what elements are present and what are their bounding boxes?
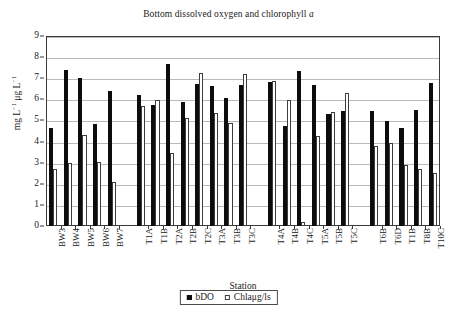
- legend-label-bdo: bDO: [195, 292, 213, 302]
- x-axis-tick-label-T2C: T2C: [203, 228, 213, 244]
- bar-Chlagls-T1B: [155, 100, 159, 226]
- chart-title: Bottom dissolved oxygen and chlorophyll …: [0, 9, 457, 19]
- y-axis-tick-label: 8: [34, 52, 39, 62]
- chart-legend: bDO Chlaμg/ls: [179, 290, 277, 305]
- bar-Chlagls-T3A: [214, 113, 218, 226]
- y-axis-tick-label: 7: [34, 73, 39, 83]
- x-axis-tick-label-T1B: T1B: [159, 228, 169, 244]
- bar-Chlagls-T6D: [389, 143, 393, 226]
- bar-Chlagls-T2B: [185, 118, 189, 226]
- y-axis-tick-label: 4: [34, 137, 39, 147]
- y-axis-tick-mark: [40, 204, 44, 205]
- x-axis-tick-label-T8B: T8B: [422, 228, 432, 244]
- bar-bDO-T4C: [297, 71, 301, 226]
- x-axis-tick-label-BW3: BW3: [57, 228, 67, 247]
- y-axis-tick-mark: [40, 120, 44, 121]
- y-axis-tick-label: 3: [34, 158, 39, 168]
- bar-Chlagls-T5C: [345, 93, 349, 226]
- x-axis-tick-label-BW4: BW4: [71, 228, 81, 247]
- x-axis-tick-label-T2A: T2A: [174, 228, 184, 245]
- bar-Chlagls-T6B: [374, 146, 378, 226]
- y-axis-tick-label: 5: [34, 116, 39, 126]
- bar-Chlagls-T8B: [418, 169, 422, 226]
- bar-Chlagls-T1A: [141, 106, 145, 226]
- x-axis-tick-label-T3B: T3B: [232, 228, 242, 244]
- open-square-icon: [225, 295, 230, 300]
- x-axis-tick-label-BW6: BW6: [101, 228, 111, 247]
- y-axis-tick-label: 0: [34, 221, 39, 231]
- y-axis-tick-label: 6: [34, 95, 39, 105]
- legend-item-chla: Chlaμg/ls: [225, 292, 271, 302]
- x-axis-tick-label-T4A: T4A: [276, 228, 286, 245]
- x-axis-tick-label-T1A: T1A: [144, 228, 154, 245]
- bar-Chlagls-BW3: [53, 169, 57, 226]
- chart-figure: Bottom dissolved oxygen and chlorophyll …: [0, 0, 457, 317]
- bar-Chlagls-T5B: [331, 112, 335, 226]
- x-axis-tick-label-BW5: BW5: [86, 228, 96, 247]
- legend-label-chla: Chlaμg/ls: [234, 292, 271, 302]
- bar-Chlagls-T3B: [228, 123, 232, 226]
- bar-Chlagls-T4A: [272, 81, 276, 226]
- x-axis-tick-label-T6B: T6B: [378, 228, 388, 244]
- bar-Chlagls-T3C: [243, 74, 247, 226]
- x-axis-tick-label-T10C: T10C: [436, 228, 446, 249]
- x-axis-tick-label-T5C: T5C: [349, 228, 359, 244]
- x-axis-tick-label-T3A: T3A: [217, 228, 227, 245]
- chart-title-italic: a: [309, 9, 314, 19]
- bar-Chlagls-BW7: [112, 182, 116, 226]
- bars-layer: [46, 36, 440, 226]
- bar-Chlagls-T2C: [199, 73, 203, 226]
- chart-title-text: Bottom dissolved oxygen and chlorophyll: [143, 9, 309, 19]
- x-axis-tick-label-BW7: BW7: [115, 228, 125, 247]
- y-axis-tick-mark: [40, 99, 44, 100]
- x-axis: BW3BW4BW5BW6BW7T1AT1BT2AT2BT2CT3AT3BT3CT…: [46, 226, 440, 282]
- x-axis-tick-label-T5B: T5B: [334, 228, 344, 244]
- bar-Chlagls-T10C: [433, 173, 437, 226]
- y-axis-tick-mark: [40, 183, 44, 184]
- x-axis-tick-label-T4B: T4B: [290, 228, 300, 244]
- y-axis-tick-mark: [40, 78, 44, 79]
- bar-Chlagls-T2A: [170, 153, 174, 226]
- x-axis-tick-label-T6D: T6D: [393, 228, 403, 245]
- y-axis-tick-label: 1: [34, 200, 39, 210]
- y-axis-tick-mark: [40, 57, 44, 58]
- bar-Chlagls-T5A: [316, 136, 320, 226]
- y-axis-tick-mark: [40, 36, 44, 37]
- x-axis-tick-label-T5A: T5A: [320, 228, 330, 245]
- y-axis-tick-mark: [40, 162, 44, 163]
- x-axis-tick-label-T3C: T3C: [247, 228, 257, 244]
- y-axis: 0123456789: [0, 36, 44, 226]
- legend-item-bdo: bDO: [186, 292, 213, 302]
- bar-Chlagls-BW5: [82, 135, 86, 226]
- y-axis-label: mg L−1 μg L−1: [12, 43, 22, 163]
- bar-Chlagls-T1B: [404, 165, 408, 226]
- y-axis-tick-label: 9: [34, 31, 39, 41]
- bar-Chlagls-BW4: [68, 163, 72, 226]
- y-axis-tick-label: 2: [34, 179, 39, 189]
- x-axis-tick-label-T4C: T4C: [305, 228, 315, 244]
- y-axis-tick-mark: [40, 226, 44, 227]
- bar-Chlagls-BW6: [97, 162, 101, 226]
- bar-Chlagls-T4B: [287, 100, 291, 226]
- x-axis-tick-label-T1B: T1B: [407, 228, 417, 244]
- x-axis-tick-label-T2B: T2B: [188, 228, 198, 244]
- y-axis-tick-mark: [40, 141, 44, 142]
- filled-square-icon: [186, 295, 191, 300]
